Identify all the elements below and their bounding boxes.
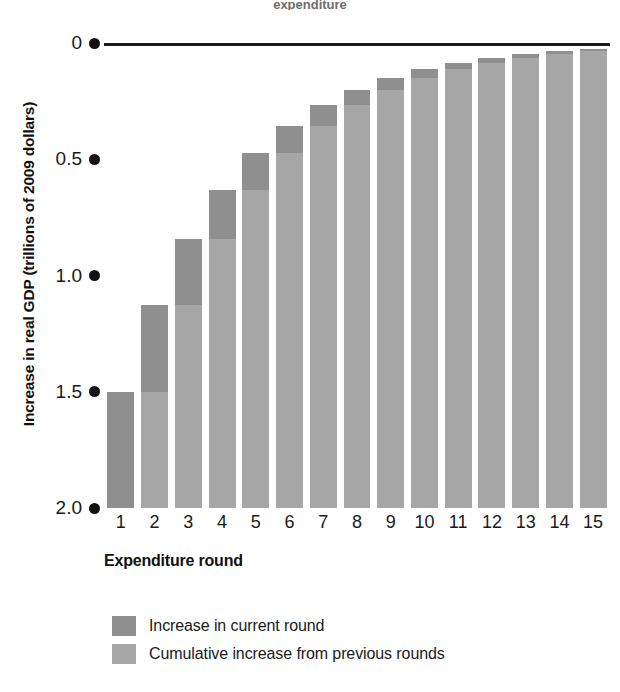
bar-segment-cumulative [175,305,202,508]
bar-column[interactable] [445,63,472,508]
y-tick-label: 0 [71,32,82,54]
x-tick-label: 6 [273,512,307,533]
x-tick-label: 7 [306,512,340,533]
bar-segment-current-round [310,105,337,126]
x-axis-ticks: 123456789101112131415 [104,512,610,538]
bar-segment-current-round [141,305,168,392]
x-tick-label: 2 [138,512,172,533]
bar-segment-cumulative [445,69,472,508]
bar-segment-cumulative [377,90,404,509]
bar-segment-current-round [580,49,607,51]
bar-segment-cumulative [512,58,539,508]
y-tick-dot-icon [89,270,100,281]
legend-label: Increase in current round [149,617,324,635]
legend-item[interactable]: Increase in current round [112,613,572,639]
y-tick-0: 2.0 [40,501,100,515]
bar-segment-current-round [478,58,505,63]
x-tick-label: 12 [475,512,509,533]
legend-swatch [112,616,136,636]
bar-column[interactable] [107,392,134,508]
bar-segment-cumulative [478,63,505,508]
x-axis-title: Expenditure round [104,552,404,570]
y-tick-label: 1.5 [56,381,82,403]
bar-column[interactable] [242,153,269,508]
x-tick-label: 14 [543,512,577,533]
y-tick-label: 1.0 [56,265,82,287]
y-tick-4: 0 [40,36,100,50]
bar-column[interactable] [478,58,505,508]
bar-segment-current-round [175,239,202,304]
bar-column[interactable] [411,69,438,508]
bar-column[interactable] [175,239,202,508]
y-tick-dot-icon [89,154,100,165]
bar-column[interactable] [546,51,573,508]
bar-segment-current-round [445,63,472,70]
y-tick-dot-icon [89,503,100,514]
y-tick-label: 2.0 [56,497,82,519]
x-tick-label: 9 [374,512,408,533]
bar-segment-cumulative [580,51,607,508]
x-tick-label: 13 [509,512,543,533]
bar-segment-current-round [512,54,539,57]
legend-item[interactable]: Cumulative increase from previous rounds [112,641,572,667]
bar-column[interactable] [580,49,607,508]
y-tick-dot-icon [89,38,100,49]
x-tick-label: 11 [441,512,475,533]
expenditure-multiplier-chart: expenditure Increase in real GDP (trilli… [0,0,620,692]
y-tick-1: 1.5 [40,385,100,399]
bar-segment-cumulative [546,54,573,508]
x-tick-label: 15 [576,512,610,533]
bar-segment-current-round [107,392,134,508]
y-axis-title: Increase in real GDP (trillions of 2009 … [20,29,38,499]
x-tick-label: 4 [205,512,239,533]
x-tick-label: 3 [171,512,205,533]
bar-segment-current-round [377,78,404,90]
bar-column[interactable] [344,90,371,509]
bar-segment-current-round [344,90,371,106]
x-tick-label: 8 [340,512,374,533]
bar-column[interactable] [310,105,337,508]
bar-series-group [104,43,610,508]
y-tick-label: 0.5 [56,148,82,170]
x-tick-label: 5 [239,512,273,533]
bar-segment-cumulative [411,78,438,508]
chart-legend: Increase in current roundCumulative incr… [112,613,572,669]
bar-column[interactable] [512,54,539,508]
legend-swatch [112,644,136,664]
bar-column[interactable] [141,305,168,508]
bar-segment-cumulative [242,190,269,508]
bar-segment-current-round [276,126,303,154]
bar-segment-cumulative [209,239,236,508]
bar-segment-current-round [546,51,573,54]
bar-segment-cumulative [310,126,337,508]
bar-segment-current-round [209,190,236,239]
bar-segment-cumulative [141,392,168,508]
y-tick-2: 1.0 [40,269,100,283]
bar-segment-cumulative [344,105,371,508]
bar-segment-cumulative [276,153,303,508]
bar-segment-current-round [242,153,269,190]
y-tick-dot-icon [89,386,100,397]
bar-column[interactable] [276,126,303,508]
y-tick-3: 0.5 [40,152,100,166]
legend-label: Cumulative increase from previous rounds [149,645,445,663]
bar-column[interactable] [377,78,404,508]
plot-area [104,43,610,508]
bar-column[interactable] [209,190,236,508]
x-tick-label: 1 [104,512,138,533]
bar-segment-current-round [411,69,438,78]
x-tick-label: 10 [408,512,442,533]
chart-title-remnant: expenditure [0,0,620,10]
